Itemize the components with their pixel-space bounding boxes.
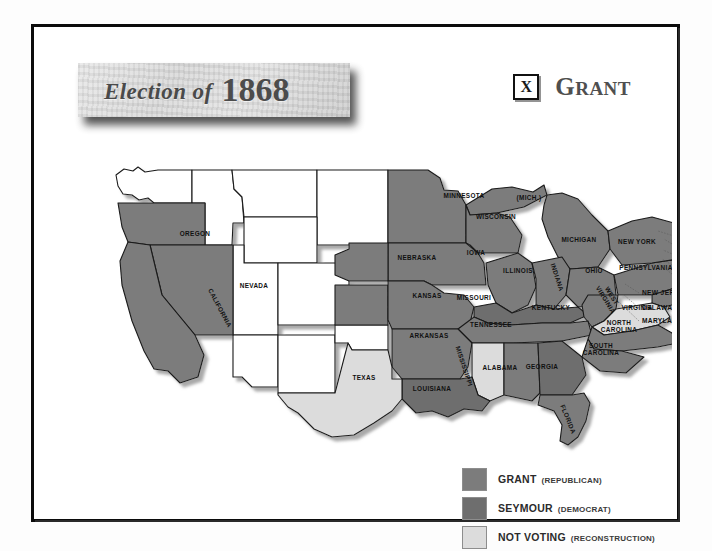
us-election-map: OREGONNEVADACALIFORNIAMINNESOTA(MICH.)WI… — [92, 145, 672, 455]
legend-item-notvote[interactable]: NOT VOTING(RECONSTRUCTION) — [462, 526, 655, 548]
legend-swatch-seymour — [462, 497, 487, 520]
state-label-texas: TEXAS — [352, 374, 375, 381]
poster-background: Election of1868 X GRANT — [0, 0, 712, 551]
legend-label-grant: GRANT(REPUBLICAN) — [498, 473, 602, 485]
state-label-kentucky: KENTUCKY — [532, 304, 571, 311]
x-mark: X — [520, 78, 532, 96]
state-wyoming-territory[interactable] — [244, 217, 317, 263]
title-text: Election of1868 — [104, 71, 290, 109]
state-label-arkansas: ARKANSAS — [409, 332, 448, 339]
legend-label-seymour: SEYMOUR(DEMOCRAT) — [498, 502, 611, 514]
state-label-oregon: OREGON — [180, 230, 211, 237]
winner-initial: G — [555, 73, 575, 100]
state-label-ohio: OHIO — [585, 267, 603, 274]
state-minnesota[interactable] — [388, 170, 466, 243]
legend-sublabel-seymour: (DEMOCRAT) — [558, 505, 611, 514]
state-label-mich: (MICH.) — [517, 194, 542, 202]
state-oregon[interactable] — [118, 203, 205, 245]
legend-swatch-grant — [462, 468, 487, 491]
state-label-new-jersey: NEW JERSEY — [642, 289, 672, 296]
map-legend: GRANT(REPUBLICAN)SEYMOUR(DEMOCRAT)NOT VO… — [462, 468, 655, 551]
state-nebraska[interactable] — [335, 243, 388, 281]
map-svg: OREGONNEVADACALIFORNIAMINNESOTA(MICH.)WI… — [92, 145, 672, 455]
state-new-mexico-territory[interactable] — [278, 335, 335, 393]
state-indian-territory[interactable] — [335, 325, 388, 350]
state-label-delaware: DELAWARE — [642, 304, 672, 311]
state-arizona-territory[interactable] — [233, 335, 278, 387]
state-label-tennessee: TENNESSEE — [470, 321, 512, 328]
legend-item-seymour[interactable]: SEYMOUR(DEMOCRAT) — [462, 497, 655, 519]
winner-name: GRANT — [555, 73, 631, 101]
state-montana-territory[interactable] — [232, 170, 317, 217]
state-michigan[interactable] — [542, 193, 610, 269]
state-label-minnesota: MINNESOTA — [443, 192, 484, 199]
state-label-nevada: NEVADA — [240, 282, 269, 289]
map-states-group — [116, 167, 672, 445]
state-florida[interactable] — [538, 393, 590, 445]
state-kansas[interactable] — [335, 285, 388, 325]
legend-sublabel-grant: (REPUBLICAN) — [542, 476, 602, 485]
state-label-nebraska: NEBRASKA — [397, 254, 436, 261]
state-label-iowa: IOWA — [467, 249, 485, 256]
state-label-georgia: GEORGIA — [526, 363, 559, 370]
legend-label-notvote: NOT VOTING(RECONSTRUCTION) — [498, 531, 655, 543]
state-label-louisiana: LOUISIANA — [413, 385, 451, 392]
state-missouri[interactable] — [388, 281, 474, 329]
winner-header: X GRANT — [513, 73, 631, 101]
legend-item-grant[interactable]: GRANT(REPUBLICAN) — [462, 468, 655, 490]
title-year: 1868 — [222, 71, 290, 108]
state-label-new-york: NEW YORK — [618, 238, 656, 245]
winner-checkbox[interactable]: X — [513, 74, 539, 100]
title-prefix: Election of — [104, 79, 213, 104]
winner-name-rest: RANT — [575, 78, 631, 99]
state-label-wisconsin: WISCONSIN — [476, 213, 516, 220]
state-label-michigan: MICHIGAN — [561, 236, 596, 243]
state-dakota-territory[interactable] — [317, 170, 388, 245]
state-alabama[interactable] — [504, 343, 540, 401]
state-washington-territory[interactable] — [116, 167, 192, 203]
title-banner: Election of1868 — [78, 63, 350, 117]
state-label-alabama: ALABAMA — [483, 364, 518, 371]
legend-sublabel-notvote: (RECONSTRUCTION) — [571, 534, 655, 543]
state-label-kansas: KANSAS — [412, 292, 441, 299]
state-label-illinois: ILLINOIS — [503, 267, 533, 274]
state-label-pennsylvania: PENNSYLVANIA — [619, 264, 672, 271]
poster-frame: Election of1868 X GRANT — [31, 24, 680, 522]
state-label-maryland: MARYLAND — [642, 317, 672, 324]
legend-swatch-notvote — [462, 526, 487, 549]
state-label-missouri: MISSOURI — [457, 294, 491, 301]
